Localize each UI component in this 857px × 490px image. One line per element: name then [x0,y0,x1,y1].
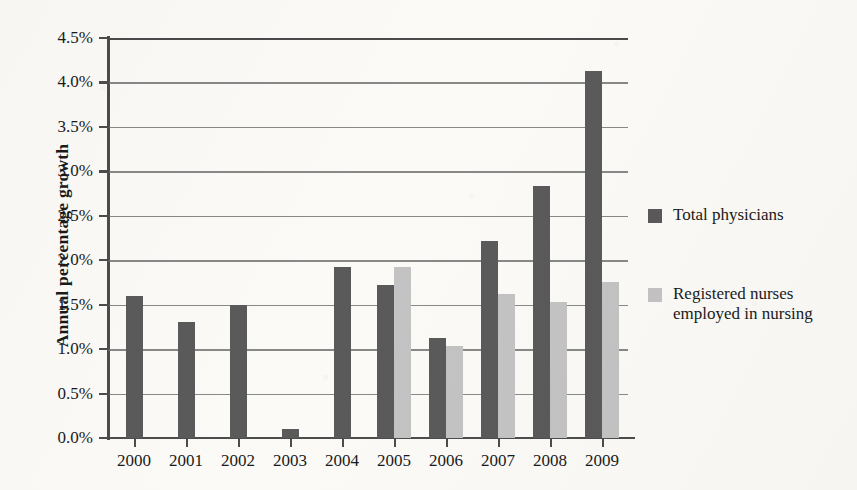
legend-swatch-icon-total-physicians [648,209,662,223]
x-tick-label-2008: 2008 [533,451,567,471]
x-tick-label-2003: 2003 [273,451,307,471]
legend-label-line1: Total physicians [673,205,784,224]
plot-area: 0.0%0.5%1.0%1.5%2.0%2.5%3.0%3.5%4.0%4.5%… [108,38,628,438]
y-tick-label: 2.5% [58,205,93,225]
gridline-4.5% [108,38,628,40]
legend: Total physicians Registered nurses emplo… [648,205,853,383]
y-tick-4.0% [99,81,109,83]
legend-label-line1: Registered nurses [673,284,793,303]
x-tick-2003 [290,438,292,447]
bar-2006-series-0 [429,338,446,438]
y-tick-3.5% [99,126,109,128]
bar-2002-series-0 [230,305,247,438]
y-tick-1.5% [99,304,109,306]
gridline-2.5% [108,216,628,218]
x-tick-2007 [498,438,500,447]
x-tick-2004 [342,438,344,447]
bar-2000-series-0 [126,296,143,438]
y-tick-0.0% [99,437,109,439]
bar-2001-series-0 [178,322,195,438]
bar-2006-series-1 [446,346,463,438]
y-tick-label: 2.0% [58,250,93,270]
x-tick-2009 [602,438,604,447]
y-tick-label: 3.0% [58,161,93,181]
bar-2004-series-0 [334,267,351,438]
bar-2009-series-1 [602,282,619,438]
x-tick-label-2004: 2004 [325,451,359,471]
gridline-3.0% [108,171,628,173]
x-tick-2005 [394,438,396,447]
x-tick-2006 [446,438,448,447]
x-tick-label-2000: 2000 [117,451,151,471]
legend-item-total-physicians: Total physicians [648,205,853,226]
bar-2008-series-0 [533,186,550,438]
x-tick-2001 [186,438,188,447]
legend-item-registered-nurses: Registered nurses employed in nursing [648,284,853,325]
x-tick-label-2006: 2006 [429,451,463,471]
y-tick-3.0% [99,170,109,172]
bar-2003-series-0 [282,429,299,438]
gridline-3.5% [108,127,628,129]
x-tick-2002 [238,438,240,447]
bar-2005-series-0 [377,285,394,438]
y-tick-label: 1.0% [58,339,93,359]
y-tick-label: 0.5% [58,383,93,403]
bar-chart: Annual percentage growth 0.0%0.5%1.0%1.5… [0,0,857,490]
gridline-2.0% [108,260,628,262]
y-tick-label: 4.5% [58,28,93,48]
bar-2009-series-0 [585,71,602,438]
y-tick-label: 4.0% [58,72,93,92]
y-tick-2.0% [99,259,109,261]
y-tick-label: 1.5% [58,294,93,314]
legend-label-line2: employed in nursing [673,304,813,323]
y-tick-label: 3.5% [58,116,93,136]
x-tick-2000 [134,438,136,447]
y-tick-1.0% [99,348,109,350]
x-tick-label-2007: 2007 [481,451,515,471]
gridline-4.0% [108,82,628,84]
legend-label-total-physicians: Total physicians [673,205,784,226]
x-tick-2008 [550,438,552,447]
legend-swatch-icon-registered-nurses [648,288,662,302]
bar-2007-series-1 [498,294,515,438]
legend-label-registered-nurses: Registered nurses employed in nursing [673,284,813,325]
bar-2008-series-1 [550,302,567,438]
x-tick-label-2001: 2001 [169,451,203,471]
x-tick-label-2009: 2009 [585,451,619,471]
bar-2005-series-1 [394,267,411,438]
x-tick-label-2005: 2005 [377,451,411,471]
x-tick-label-2002: 2002 [221,451,255,471]
bar-2007-series-0 [481,241,498,438]
y-tick-label: 0.0% [58,428,93,448]
y-tick-0.5% [99,393,109,395]
y-tick-4.5% [99,37,109,39]
y-tick-2.5% [99,215,109,217]
y-axis-line [107,36,110,440]
